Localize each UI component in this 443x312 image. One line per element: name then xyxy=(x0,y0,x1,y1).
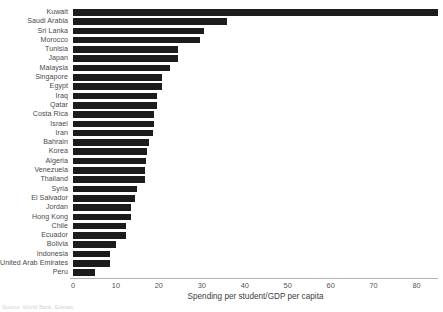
category-axis-labels: KuwaitSaudi ArabiaSri LankaMoroccoTunisi… xyxy=(0,8,71,278)
category-label: Venezuela xyxy=(0,166,71,175)
x-tick-label: 30 xyxy=(198,281,206,290)
bar xyxy=(73,214,131,221)
bar-row xyxy=(73,138,438,147)
bar xyxy=(73,251,110,258)
bar xyxy=(73,111,154,118)
category-label: Hong Kong xyxy=(0,213,71,222)
bar-rows xyxy=(73,8,438,278)
bar xyxy=(73,204,131,211)
x-axis-title: Spending per student/GDP per capita xyxy=(73,292,438,301)
source-note: Source: World Bank, Edstats xyxy=(2,304,73,310)
bar xyxy=(73,18,227,25)
bar xyxy=(73,241,116,248)
bar xyxy=(73,269,95,276)
bar xyxy=(73,139,149,146)
bar-row xyxy=(73,17,438,26)
bar xyxy=(73,148,147,155)
bar xyxy=(73,167,145,174)
category-label: Bolivia xyxy=(0,240,71,249)
bar-row xyxy=(73,157,438,166)
bar xyxy=(73,158,146,165)
bar xyxy=(73,37,200,44)
category-label: Costa Rica xyxy=(0,110,71,119)
bar xyxy=(73,74,162,81)
bar-row xyxy=(73,54,438,63)
x-axis-line xyxy=(70,278,438,279)
bar xyxy=(73,9,438,16)
x-tick-label: 20 xyxy=(155,281,163,290)
category-label: Thailand xyxy=(0,175,71,184)
bar xyxy=(73,195,135,202)
category-label: Bahrain xyxy=(0,138,71,147)
x-tick-label: 40 xyxy=(241,281,249,290)
bar xyxy=(73,93,157,100)
bar xyxy=(73,46,178,53)
bar-row xyxy=(73,101,438,110)
plot-area xyxy=(73,8,438,278)
bar xyxy=(73,121,154,128)
bar xyxy=(73,130,153,137)
category-label: Jordan xyxy=(0,203,71,212)
bar xyxy=(73,102,157,109)
x-tick-label: 50 xyxy=(284,281,292,290)
category-label: Saudi Arabia xyxy=(0,17,71,26)
bar xyxy=(73,28,204,35)
category-label: Kuwait xyxy=(0,8,71,17)
category-label: Iraq xyxy=(0,92,71,101)
category-label: United Arab Emirates xyxy=(0,259,71,268)
category-label: Tunisia xyxy=(0,45,71,54)
bar-row xyxy=(73,268,438,277)
category-label: Singapore xyxy=(0,73,71,82)
bar-row xyxy=(73,27,438,36)
category-label: Chile xyxy=(0,222,71,231)
bar-row xyxy=(73,82,438,91)
category-label: Morocco xyxy=(0,36,71,45)
bar-row xyxy=(73,92,438,101)
category-label: Syria xyxy=(0,185,71,194)
bar xyxy=(73,186,137,193)
bar xyxy=(73,176,145,183)
bar-row xyxy=(73,231,438,240)
bar-row xyxy=(73,166,438,175)
category-label: Peru xyxy=(0,268,71,277)
x-tick-label: 0 xyxy=(71,281,75,290)
category-label: Malaysia xyxy=(0,64,71,73)
bar-row xyxy=(73,110,438,119)
x-tick-label: 80 xyxy=(412,281,420,290)
category-label: Egypt xyxy=(0,82,71,91)
bar-row xyxy=(73,213,438,222)
bar xyxy=(73,260,110,267)
category-label: Iran xyxy=(0,129,71,138)
bar-row xyxy=(73,45,438,54)
bar xyxy=(73,223,126,230)
x-tick-label: 60 xyxy=(327,281,335,290)
category-label: Japan xyxy=(0,54,71,63)
bar xyxy=(73,65,170,72)
bar-row xyxy=(73,194,438,203)
bar-row xyxy=(73,147,438,156)
category-label: Algeria xyxy=(0,157,71,166)
x-tick-label: 70 xyxy=(369,281,377,290)
bar-row xyxy=(73,8,438,17)
bar-row xyxy=(73,36,438,45)
bar xyxy=(73,55,178,62)
bar-row xyxy=(73,259,438,268)
bar-row xyxy=(73,203,438,212)
bar-row xyxy=(73,175,438,184)
bar-row xyxy=(73,120,438,129)
bar-chart: KuwaitSaudi ArabiaSri LankaMoroccoTunisi… xyxy=(0,0,443,312)
x-tick-label: 10 xyxy=(112,281,120,290)
bar xyxy=(73,83,162,90)
bar-row xyxy=(73,73,438,82)
bar-row xyxy=(73,129,438,138)
bar xyxy=(73,232,126,239)
bar-row xyxy=(73,250,438,259)
category-label: Qatar xyxy=(0,101,71,110)
bar-row xyxy=(73,64,438,73)
bar-row xyxy=(73,185,438,194)
category-label: Indonesia xyxy=(0,250,71,259)
bar-row xyxy=(73,240,438,249)
category-label: Ecuador xyxy=(0,231,71,240)
category-label: Israel xyxy=(0,120,71,129)
bar-row xyxy=(73,222,438,231)
